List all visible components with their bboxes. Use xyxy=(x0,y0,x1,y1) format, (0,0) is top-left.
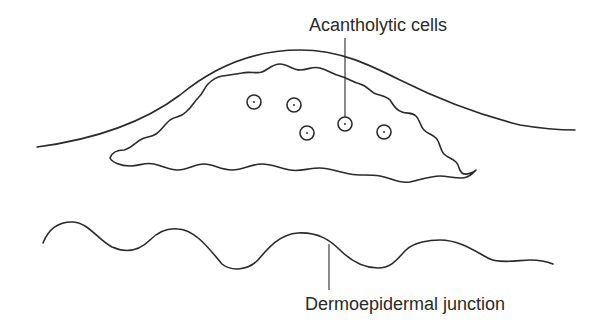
dermoepidermal-junction-line xyxy=(43,222,553,269)
blister-diagram: Acantholytic cells Dermoepidermal juncti… xyxy=(0,0,597,327)
acantholytic-cell xyxy=(300,126,314,140)
acantholytic-cell xyxy=(247,95,261,109)
acantholytic-cells-label: Acantholytic cells xyxy=(309,15,447,35)
blister-cavity-outline xyxy=(110,64,476,182)
acantholytic-cell xyxy=(377,125,391,139)
dermoepidermal-junction-label: Dermoepidermal junction xyxy=(305,294,505,314)
acantholytic-cell xyxy=(338,117,352,131)
acantholytic-cell xyxy=(287,98,301,112)
skin-surface-curve xyxy=(37,50,575,147)
